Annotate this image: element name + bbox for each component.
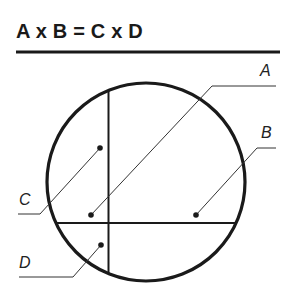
label-b: B [261, 124, 272, 141]
leader-a [88, 86, 276, 218]
intersecting-chords-diagram: A B C D [0, 0, 292, 294]
leader-b [193, 148, 276, 218]
point-d-dot [98, 242, 104, 248]
label-d: D [19, 254, 31, 271]
leader-d [19, 242, 104, 277]
point-a-dot [88, 212, 94, 218]
point-c-dot [97, 145, 103, 151]
circle [47, 83, 245, 281]
label-a: A [259, 62, 271, 79]
label-c: C [19, 191, 31, 208]
point-b-dot [193, 212, 199, 218]
leader-c [18, 145, 103, 214]
